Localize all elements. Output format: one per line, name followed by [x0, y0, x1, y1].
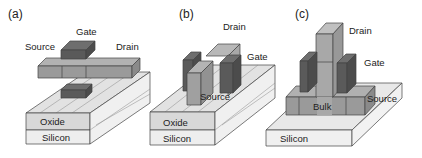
gate-label-b: Gate — [247, 51, 268, 62]
panel-label-c: (c) — [295, 7, 309, 21]
silicon-label-b: Silicon — [163, 133, 191, 144]
device-diagram: (a) Gate Source Drain Oxide Silicon (b) … — [0, 0, 422, 158]
gate-label-c: Gate — [364, 57, 385, 68]
silicon-label-a: Silicon — [42, 132, 70, 143]
silicon-layer-c — [266, 130, 352, 146]
gate-label-a: Gate — [76, 26, 97, 37]
bulk-label-c: Bulk — [313, 101, 332, 112]
drain-label-b: Drain — [223, 21, 246, 32]
drain-label-c: Drain — [349, 25, 372, 36]
channel-bar — [38, 66, 132, 78]
oxide-label-a: Oxide — [40, 116, 65, 127]
top-gate — [61, 50, 86, 59]
panel-a: (a) Gate Source Drain Oxide Silicon — [8, 7, 150, 144]
pillar-front-c — [316, 34, 333, 97]
silicon-label-c: Silicon — [280, 133, 308, 144]
panel-b: (b) Drain Gate Source Oxide Silicon — [150, 7, 275, 145]
fin-source — [187, 73, 201, 105]
panel-label-b: (b) — [179, 7, 194, 21]
source-label-a: Source — [25, 41, 55, 52]
gate-left-c — [300, 61, 308, 92]
gate-right-c — [337, 63, 347, 93]
panel-label-a: (a) — [8, 7, 23, 21]
source-label-c: Source — [367, 93, 397, 104]
source-label-b: Source — [200, 91, 230, 102]
panel-c: (c) Drain Gate Source Bulk Silicon — [266, 7, 402, 146]
channel-bar-top — [38, 58, 140, 66]
oxide-label-b: Oxide — [163, 117, 188, 128]
bottom-gate — [61, 90, 86, 98]
drain-label-a: Drain — [116, 41, 139, 52]
gate-right-b — [220, 63, 233, 93]
